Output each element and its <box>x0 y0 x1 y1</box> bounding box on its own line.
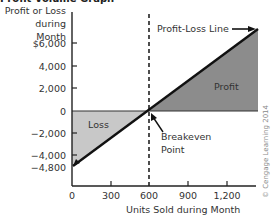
y-tick-minus-4000: −4,000 <box>31 150 66 161</box>
profit-loss-line-label: Profit-Loss Line <box>157 22 229 35</box>
y-tick-2000: 2,000 <box>39 83 66 94</box>
x-tick-0: 0 <box>69 190 75 201</box>
breakeven-label-line1: Breakeven <box>161 130 211 143</box>
loss-label: Loss <box>88 118 109 131</box>
y-tick-0: 0 <box>60 106 66 117</box>
x-tick-300: 300 <box>102 190 120 201</box>
profit-label: Profit <box>214 80 239 93</box>
breakeven-label-line2: Point <box>161 143 185 156</box>
y-tick-6000: $6,000 <box>33 38 66 49</box>
y-tick-minus-4800: −4,800 <box>31 162 66 173</box>
chart-plot <box>0 0 275 218</box>
y-tick-4000: 4,000 <box>39 61 66 72</box>
copyright-credit: © Cengage Learning 2014 <box>262 105 270 198</box>
x-axis-label: Units Sold during Month <box>126 204 240 215</box>
x-ticks <box>111 181 227 186</box>
breakeven-arrowhead-icon <box>151 113 157 121</box>
y-tick-minus-2000: −2,000 <box>31 128 66 139</box>
x-tick-600: 600 <box>140 190 158 201</box>
x-tick-900: 900 <box>179 190 197 201</box>
x-tick-1200: 1,200 <box>213 190 240 201</box>
